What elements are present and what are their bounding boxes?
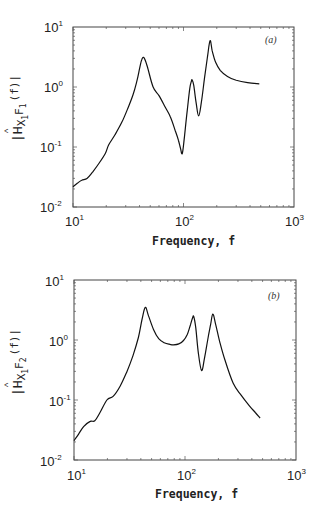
xtick-b-10^3: 103 bbox=[287, 467, 306, 483]
xtick-a-10^1: 101 bbox=[65, 213, 84, 229]
ytick-a-10^1: 101 bbox=[44, 19, 63, 35]
plot-area-a bbox=[73, 27, 294, 207]
chart-a-svg: (a) 101 100 10-1 10-2 101 102 103 Freque… bbox=[0, 0, 317, 254]
curve-a bbox=[73, 41, 259, 187]
ytick-a-10^-1: 10-1 bbox=[40, 139, 62, 155]
x-axis-label-a: Frequency, f bbox=[152, 234, 235, 248]
chart-b-svg: (b) 101 100 10-1 10-2 101 102 103 Freque… bbox=[0, 254, 317, 508]
ytick-b-10^-2: 10-2 bbox=[40, 453, 62, 469]
ytick-b-10^0: 100 bbox=[49, 333, 68, 349]
xtick-a-10^3: 103 bbox=[285, 213, 304, 229]
minor-ticks-b bbox=[74, 280, 296, 460]
y-axis-label-a: |HX1F1(f)| ^ bbox=[3, 75, 30, 142]
xtick-b-10^1: 101 bbox=[67, 467, 86, 483]
xtick-b-10^2: 102 bbox=[177, 467, 196, 483]
ytick-a-10^-2: 10-2 bbox=[40, 199, 62, 215]
ytick-b-10^-1: 10-1 bbox=[49, 393, 71, 409]
ytick-b-10^1: 101 bbox=[45, 273, 64, 289]
chart-panel-b: (b) 101 100 10-1 10-2 101 102 103 Freque… bbox=[0, 254, 317, 508]
plot-area-b bbox=[74, 280, 296, 460]
ytick-a-10^0: 100 bbox=[44, 79, 63, 95]
panel-tag-a: (a) bbox=[265, 34, 277, 46]
minor-ticks-a bbox=[73, 27, 294, 207]
x-axis-label-b: Frequency, f bbox=[155, 487, 238, 501]
panel-tag-b: (b) bbox=[268, 290, 280, 302]
xtick-a-10^2: 102 bbox=[175, 213, 194, 229]
chart-panel-a: (a) 101 100 10-1 10-2 101 102 103 Freque… bbox=[0, 0, 317, 254]
y-axis-label-b: |HX1F2(f)| ^ bbox=[3, 329, 30, 396]
curve-b bbox=[74, 307, 260, 440]
